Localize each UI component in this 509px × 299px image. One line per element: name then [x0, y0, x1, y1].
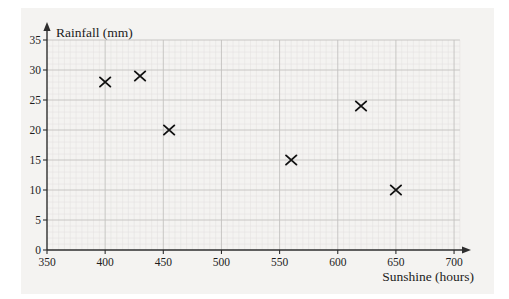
y-tick-label: 5: [35, 214, 41, 226]
y-tick-label: 10: [30, 184, 42, 196]
x-tick-label: 350: [38, 256, 56, 268]
y-tick-label: 25: [30, 94, 42, 106]
x-tick-label: 600: [329, 256, 347, 268]
y-tick-label: 0: [35, 244, 41, 256]
y-tick-label: 30: [30, 64, 42, 76]
y-tick-label: 20: [30, 124, 42, 136]
x-tick-label: 450: [155, 256, 173, 268]
y-tick-label: 35: [30, 34, 42, 46]
y-axis-title: Rainfall (mm): [56, 25, 133, 40]
x-tick-label: 650: [387, 256, 405, 268]
screenshot-root: 05101520253035350400450500550600650700 R…: [0, 0, 509, 299]
x-tick-label: 700: [445, 256, 463, 268]
y-tick-label: 15: [30, 154, 42, 166]
x-tick-label: 500: [213, 256, 231, 268]
x-tick-label: 400: [97, 256, 115, 268]
x-axis-title: Sunshine (hours): [382, 269, 474, 284]
scatter-chart: 05101520253035350400450500550600650700 R…: [0, 0, 509, 299]
x-tick-label: 550: [271, 256, 289, 268]
graph-paper-panel: [21, 8, 494, 294]
